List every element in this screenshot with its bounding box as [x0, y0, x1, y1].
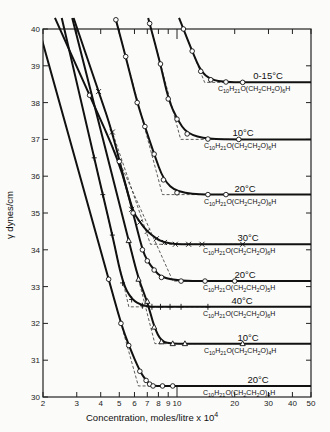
curve-line — [115, 18, 311, 195]
curve-temperature-label: 20°C — [234, 183, 255, 194]
plot-frame — [43, 29, 311, 397]
circle-marker — [206, 137, 211, 142]
circle-marker — [166, 97, 171, 102]
curve-temperature-label: 20°C — [247, 374, 268, 385]
y-tick-label: 33 — [31, 283, 40, 292]
x-tick-label: 8 — [156, 399, 161, 408]
circle-marker — [224, 192, 229, 197]
circle-marker — [159, 275, 164, 280]
circle-marker — [158, 62, 163, 67]
circle-marker — [240, 80, 245, 85]
series-1 — [147, 18, 311, 142]
circle-marker — [160, 384, 165, 389]
x-tick-label: 5 — [117, 399, 122, 408]
circle-marker — [138, 369, 143, 374]
triangle-marker — [136, 276, 141, 281]
curve-temperature-label: 0-15°C — [253, 70, 283, 81]
circle-marker — [147, 21, 152, 26]
x-tick-label: 30 — [264, 399, 273, 408]
x-tick-label: 10 — [173, 399, 182, 408]
circle-marker — [206, 192, 211, 197]
circle-marker — [117, 159, 122, 164]
x-tick-label: 2 — [41, 399, 46, 408]
plus-marker — [129, 296, 134, 302]
plus-marker — [100, 192, 105, 198]
curve-line — [148, 18, 311, 139]
x-tick-label: 50 — [307, 399, 316, 408]
curve-formula-label: C10H21O(CH2CH2O)6H — [203, 247, 275, 256]
series-5 — [62, 18, 311, 310]
y-tick-label: 31 — [31, 356, 40, 365]
x-tick-label: 9 — [166, 399, 171, 408]
y-tick-label: 30 — [31, 393, 40, 402]
circle-marker — [190, 49, 195, 54]
curve-formula-label: C10H21O(CH2CH2O)6H — [204, 198, 276, 207]
curve-line — [62, 18, 311, 307]
circle-marker — [181, 27, 186, 32]
y-tick-label: 36 — [31, 172, 40, 181]
x-tick-label: 4 — [98, 399, 103, 408]
curve-temperature-label: 30°C — [237, 232, 258, 243]
circle-marker — [144, 378, 149, 383]
x-tick-label: 20 — [230, 399, 239, 408]
circle-marker — [131, 211, 136, 216]
circle-marker — [106, 277, 111, 282]
plus-marker — [168, 304, 173, 310]
y-tick-label: 35 — [31, 209, 40, 218]
triangle-marker — [126, 238, 131, 243]
plus-marker — [179, 304, 184, 310]
circle-marker — [151, 384, 156, 389]
y-tick-label: 40 — [31, 25, 40, 34]
circle-marker — [135, 100, 140, 105]
y-tick-label: 34 — [31, 246, 40, 255]
x-axis-title: Concentration, moles/litre x 104 — [86, 411, 218, 423]
circle-marker — [224, 80, 229, 85]
x-tick-label: 6 — [132, 399, 137, 408]
x-tick-label: 7 — [145, 399, 150, 408]
triangle-marker — [152, 324, 157, 329]
circle-marker — [143, 124, 148, 129]
curve-formula-label: C10H21O(CH2CH2O)6H — [203, 310, 275, 319]
circle-marker — [126, 343, 131, 348]
curve-temperature-label: 10°C — [237, 332, 258, 343]
curve-line — [55, 18, 311, 281]
curve-temperature-label: 10°C — [232, 127, 253, 138]
series-0 — [179, 18, 311, 85]
y-tick-label: 37 — [31, 135, 40, 144]
x-tick-label: 3 — [75, 399, 80, 408]
circle-marker — [198, 69, 203, 74]
plus-marker — [92, 155, 97, 161]
circle-marker — [179, 279, 184, 284]
curve-line — [72, 18, 311, 344]
circle-marker — [161, 178, 166, 183]
x-tick-label: 40 — [288, 399, 297, 408]
curve-labels: 0-15°CC10H21O(CH2CH2O)6H10°CC10H21O(CH2C… — [203, 70, 290, 398]
circle-marker — [208, 77, 213, 82]
curve-temperature-label: 40°C — [231, 295, 252, 306]
curve-formula-label: C10H21O(CH2CH2O)5H — [203, 284, 275, 293]
curve-formula-label: C10H21O(CH2CH2O)6H — [204, 142, 276, 151]
circle-marker — [203, 279, 208, 284]
circle-marker — [175, 117, 180, 122]
y-axis-title: γ dynes/cm — [4, 191, 15, 239]
circle-marker — [119, 321, 124, 326]
x-axis-title-main: Concentration, moles/litre x 10 — [86, 412, 214, 423]
plus-marker — [110, 232, 115, 238]
surface-tension-chart: 3031323334353637383940 23456789102030405… — [0, 0, 330, 432]
circle-marker — [114, 18, 119, 23]
circle-marker — [185, 132, 190, 137]
curve-formula-label: C10H21O(CH2CH2O)4H — [204, 347, 276, 356]
circle-marker — [145, 259, 150, 264]
circle-marker — [152, 268, 157, 273]
y-tick-label: 32 — [31, 319, 40, 328]
y-tick-label: 39 — [31, 62, 40, 71]
circle-marker — [140, 248, 145, 253]
curve-temperature-label: 20°C — [234, 269, 255, 280]
y-tick-label: 38 — [31, 99, 40, 108]
x-axis-title-exponent: 4 — [214, 411, 218, 418]
series-6 — [72, 18, 311, 346]
curve-formula-label: C10H21O(CH2CH2O)6H — [218, 85, 290, 94]
plus-marker — [158, 304, 163, 310]
circle-marker — [152, 152, 157, 157]
extrapolation-line — [183, 29, 242, 82]
